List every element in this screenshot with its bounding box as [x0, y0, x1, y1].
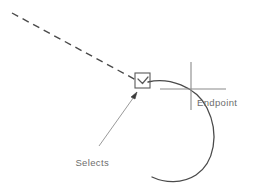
- selects-endpoint-label: Selects endpoint: [57, 133, 109, 191]
- pickbox[interactable]: [135, 73, 150, 88]
- leader-arrowhead-icon: [131, 92, 137, 99]
- crosshair-guide-dashed-line: [12, 13, 138, 81]
- endpoint-label: Endpoint: [197, 73, 237, 133]
- endpoint-osnap-marker-icon: [138, 77, 148, 84]
- selects-endpoint-label-line1: Selects: [57, 157, 109, 169]
- diagram-canvas: Endpoint Selects endpoint: [0, 0, 255, 191]
- endpoint-label-text: Endpoint: [197, 97, 237, 109]
